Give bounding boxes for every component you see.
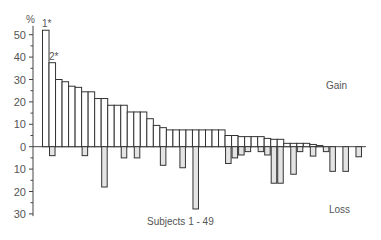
gain-bar <box>114 105 121 146</box>
gain-bar <box>88 92 95 147</box>
loss-bar <box>356 147 362 157</box>
bar1-annotation: 1* <box>42 18 51 29</box>
gain-bar <box>284 143 291 146</box>
bar2-annotation: 2* <box>49 51 58 62</box>
loss-bar <box>232 147 238 158</box>
gain-bar <box>251 137 258 147</box>
gain-bar <box>238 137 245 147</box>
gain-bar <box>179 130 186 147</box>
loss-bar <box>265 147 271 155</box>
gain-bar <box>95 99 102 147</box>
loss-label: Loss <box>329 204 350 215</box>
loss-bar <box>271 147 277 184</box>
x-axis-label: Subjects 1 - 49 <box>147 216 214 227</box>
gain-bar <box>225 136 232 147</box>
loss-bar <box>239 147 245 155</box>
gain-bar <box>160 128 167 147</box>
loss-bar <box>180 147 186 168</box>
loss-bar <box>297 147 303 152</box>
gain-bar <box>101 99 108 147</box>
gain-bar <box>166 130 173 147</box>
gain-bar <box>127 112 134 147</box>
loss-bar <box>343 147 349 172</box>
gain-bar <box>75 87 82 146</box>
svg-text:30: 30 <box>14 74 26 86</box>
gain-bar <box>212 130 219 147</box>
loss-bar <box>226 147 232 164</box>
loss-bar <box>102 147 108 187</box>
loss-bar <box>193 147 199 209</box>
gain-bar <box>258 137 265 147</box>
loss-bar <box>82 147 88 156</box>
loss-bar <box>134 147 140 158</box>
gain-bar <box>121 105 128 146</box>
loss-bar <box>291 147 297 175</box>
loss-bar <box>323 147 329 152</box>
svg-text:50: 50 <box>14 29 26 41</box>
gain-bar <box>49 63 56 147</box>
gain-bar <box>56 80 63 147</box>
gain-bar <box>62 82 69 147</box>
gain-bar <box>277 139 284 146</box>
loss-bar <box>278 147 284 184</box>
gain-bar <box>245 137 252 147</box>
gain-bar <box>153 125 160 146</box>
gain-bar <box>232 136 239 147</box>
svg-text:30: 30 <box>14 208 26 220</box>
gain-bar <box>140 112 147 147</box>
svg-text:10: 10 <box>14 118 26 130</box>
loss-bar <box>50 147 56 156</box>
gain-bar <box>43 30 50 146</box>
gain-bar <box>134 112 141 147</box>
loss-bar <box>258 147 264 152</box>
gain-bar <box>316 146 323 147</box>
loss-bar <box>330 147 336 172</box>
bars <box>43 30 362 209</box>
loss-bar <box>245 147 251 152</box>
svg-text:10: 10 <box>14 163 26 175</box>
gain-bar <box>290 143 297 146</box>
gain-bar <box>264 138 271 146</box>
svg-text:0: 0 <box>20 141 26 153</box>
gain-bar <box>219 130 226 147</box>
svg-text:20: 20 <box>14 96 26 108</box>
loss-bar <box>310 147 316 156</box>
gain-bar <box>303 143 310 146</box>
svg-text:40: 40 <box>14 51 26 63</box>
gain-bar <box>271 139 278 146</box>
gain-bar <box>82 92 89 147</box>
gain-bar <box>173 130 180 147</box>
loss-bar <box>160 147 166 166</box>
gain-bar <box>297 143 304 146</box>
gain-label: Gain <box>326 80 347 91</box>
y-axis-unit: % <box>26 14 35 25</box>
loss-bar <box>121 147 127 158</box>
gain-bar <box>108 105 115 146</box>
gain-bar <box>186 130 193 147</box>
gain-bar <box>69 86 76 146</box>
gain-bar <box>192 130 199 147</box>
gain-loss-bar-chart: 01020304050102030 <box>0 0 381 240</box>
gain-bar <box>206 130 213 147</box>
svg-text:20: 20 <box>14 186 26 198</box>
gain-bar <box>199 130 206 147</box>
gain-bar <box>147 119 154 147</box>
